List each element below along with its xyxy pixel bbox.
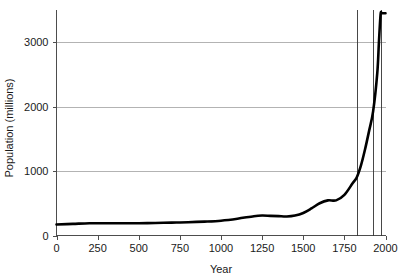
chart-canvas: 025050075010001250150017502000 010002000…: [0, 0, 403, 278]
x-tick-label-1500: 1500: [291, 242, 315, 254]
x-tick-label-2000: 2000: [373, 242, 397, 254]
x-tick-label-500: 500: [130, 242, 148, 254]
y-tick-label-3000: 3000: [24, 36, 48, 48]
population-growth-chart: 025050075010001250150017502000 010002000…: [0, 0, 403, 278]
y-tick-label-2000: 2000: [24, 101, 48, 113]
y-tick-label-0: 0: [42, 230, 48, 242]
x-axis-title: Year: [210, 263, 233, 275]
x-tick-label-1000: 1000: [209, 242, 233, 254]
x-tick-label-1250: 1250: [250, 242, 274, 254]
gridlines: [57, 43, 386, 172]
y-tick-label-1000: 1000: [24, 165, 48, 177]
population-curve: [57, 12, 386, 225]
y-tick-labels: 0100020003000: [24, 36, 48, 241]
x-tick-label-0: 0: [53, 242, 59, 254]
x-tick-label-750: 750: [171, 242, 189, 254]
x-tick-labels: 025050075010001250150017502000: [53, 242, 397, 254]
axes: [56, 10, 386, 236]
x-tick-label-250: 250: [88, 242, 106, 254]
y-axis-title: Population (millions): [3, 78, 15, 177]
x-tick-label-1750: 1750: [332, 242, 356, 254]
